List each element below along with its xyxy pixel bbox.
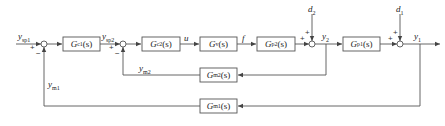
block-gp2: Gp2(s) bbox=[257, 37, 295, 51]
sum-junction-2 bbox=[120, 41, 126, 47]
signal-d1: d1 bbox=[396, 5, 404, 16]
block-arg: (s) bbox=[221, 101, 231, 111]
signal-d2: d2 bbox=[308, 5, 316, 16]
block-gc1: Gc1(s) bbox=[63, 37, 100, 51]
block-arg: (s) bbox=[278, 39, 288, 49]
sign-minus-sum2: − bbox=[115, 50, 120, 58]
signal-ym2: ym2 bbox=[139, 64, 151, 75]
sum-junction-1 bbox=[41, 41, 47, 47]
sign-plus-sum1: + bbox=[30, 44, 35, 52]
sum-junction-d1 bbox=[397, 41, 403, 47]
block-sub: m1 bbox=[213, 103, 221, 109]
sign-plus-sum4-left: + bbox=[388, 35, 393, 43]
sign-plus-sum2: + bbox=[109, 44, 114, 52]
block-arg: (s) bbox=[162, 39, 172, 49]
block-arg: (s) bbox=[219, 39, 229, 49]
signal-y2: y2 bbox=[322, 32, 329, 43]
sign-minus-sum1: − bbox=[36, 50, 41, 58]
signal-ysp2: ysp2 bbox=[102, 32, 114, 43]
signal-y1: y1 bbox=[414, 32, 421, 43]
block-gm1: Gm1(s) bbox=[200, 99, 237, 113]
signal-u: u bbox=[184, 34, 189, 43]
sum-junction-d2 bbox=[309, 41, 315, 47]
block-gp1: Gp1(s) bbox=[343, 37, 380, 51]
signal-f: f bbox=[242, 34, 245, 43]
block-gm2: Gm2(s) bbox=[200, 68, 237, 82]
sign-plus-sum3-top: + bbox=[305, 29, 310, 37]
block-gc2: Gc2(s) bbox=[142, 37, 180, 51]
signal-ym1: ym1 bbox=[48, 80, 60, 91]
block-arg: (s) bbox=[83, 39, 93, 49]
block-arg: (s) bbox=[363, 39, 373, 49]
signal-ysp1: ysp1 bbox=[18, 32, 30, 43]
block-arg: (s) bbox=[221, 70, 231, 80]
sign-plus-sum3-left: + bbox=[300, 35, 305, 43]
sign-plus-sum4-top: + bbox=[393, 29, 398, 37]
block-sub: m2 bbox=[213, 72, 221, 78]
block-gv: Gv(s) bbox=[200, 37, 237, 51]
